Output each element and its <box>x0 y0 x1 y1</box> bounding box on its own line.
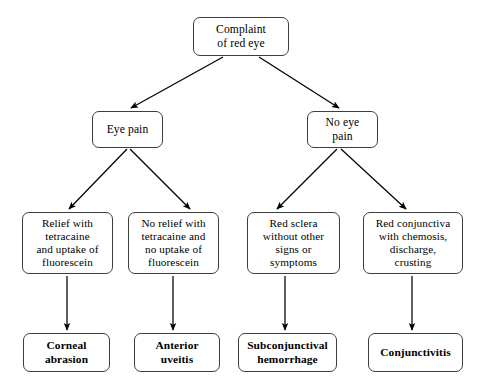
no-eye-pain-to-red-sclera-arrow <box>277 149 337 209</box>
node-eye-pain: Eye pain <box>92 111 163 148</box>
node-label: No eye pain <box>308 116 377 143</box>
flowchart-canvas: Complaint of red eye Eye pain No eye pai… <box>0 0 483 387</box>
eye-pain-to-no-relief-arrow <box>130 149 190 209</box>
node-no-relief-with-tetracaine: No relief with tetracaine and no uptake … <box>128 212 219 274</box>
node-label: Corneal abrasion <box>24 339 109 366</box>
node-red-conjunctiva: Red conjunctiva with chemosis, discharge… <box>363 212 463 274</box>
node-label: Subconjunctival hemorrhage <box>239 339 336 366</box>
node-complaint-of-red-eye: Complaint of red eye <box>193 17 289 56</box>
node-label: Eye pain <box>93 123 162 137</box>
node-label: Red conjunctiva with chemosis, discharge… <box>364 217 462 270</box>
connector-layer <box>0 0 483 387</box>
node-label: Complaint of red eye <box>194 23 288 50</box>
root-to-eye-pain-arrow <box>131 57 223 108</box>
node-conjunctivitis: Conjunctivitis <box>368 333 463 372</box>
node-label: Conjunctivitis <box>369 346 462 359</box>
node-anterior-uveitis: Anterior uveitis <box>134 333 220 372</box>
node-corneal-abrasion: Corneal abrasion <box>23 333 110 372</box>
node-relief-with-tetracaine: Relief with tetracaine and uptake of flu… <box>22 212 113 274</box>
no-eye-pain-to-red-conj-arrow <box>341 149 406 209</box>
eye-pain-to-relief-arrow <box>69 149 127 209</box>
root-to-no-eye-pain-arrow <box>259 57 339 108</box>
node-no-eye-pain: No eye pain <box>307 111 378 148</box>
node-label: Relief with tetracaine and uptake of flu… <box>23 217 112 270</box>
node-label: Red sclera without other signs or sympto… <box>248 217 339 270</box>
node-label: No relief with tetracaine and no uptake … <box>129 217 218 270</box>
node-label: Anterior uveitis <box>135 339 219 366</box>
node-subconjunctival-hemorrhage: Subconjunctival hemorrhage <box>238 333 337 372</box>
node-red-sclera: Red sclera without other signs or sympto… <box>247 212 340 274</box>
